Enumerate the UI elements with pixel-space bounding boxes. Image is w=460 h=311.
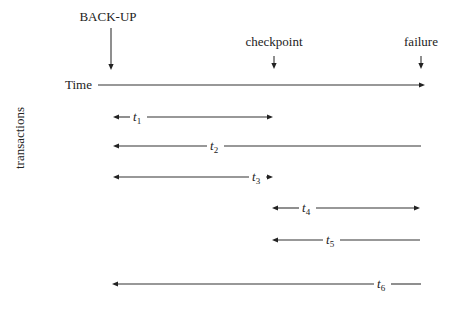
arrowhead-down-icon <box>418 63 423 69</box>
transaction-label: t6 <box>377 276 386 293</box>
transaction-label: t1 <box>133 109 141 126</box>
arrowhead-left-icon <box>112 281 118 286</box>
transaction-t2: t2 <box>113 138 421 155</box>
arrowhead-right-icon <box>267 174 273 179</box>
transaction-label: t3 <box>252 169 261 186</box>
transaction-t3: t3 <box>113 169 273 186</box>
arrowhead-left-icon <box>113 114 119 119</box>
arrowhead-left-icon <box>272 205 278 210</box>
transaction-t1: t1 <box>113 109 273 126</box>
arrowhead-left-icon <box>113 143 119 148</box>
transaction-timeline-diagram: BACK-UPcheckpointfailure Time transactio… <box>0 0 460 311</box>
marker-backup: BACK-UP <box>79 9 136 70</box>
marker-checkpoint: checkpoint <box>245 34 302 69</box>
arrowhead-down-icon <box>271 63 276 69</box>
transaction-t5: t5 <box>272 232 420 249</box>
transaction-label: t4 <box>302 200 311 217</box>
time-axis-arrowhead-icon <box>419 82 425 87</box>
transaction-label: t5 <box>326 232 335 249</box>
transaction-t4: t4 <box>272 200 420 217</box>
transactions-axis-label: transactions <box>12 107 27 169</box>
arrowhead-left-icon <box>113 174 119 179</box>
marker-failure: failure <box>404 34 438 69</box>
marker-label-checkpoint: checkpoint <box>245 34 302 49</box>
time-axis-label: Time <box>65 77 92 92</box>
arrowhead-right-icon <box>414 205 420 210</box>
transaction-label: t2 <box>210 138 218 155</box>
arrowhead-down-icon <box>108 64 113 70</box>
transactions-group: t1t2t3t4t5t6 <box>112 109 421 293</box>
marker-label-backup: BACK-UP <box>79 9 136 24</box>
arrowhead-right-icon <box>267 114 273 119</box>
marker-label-failure: failure <box>404 34 438 49</box>
time-axis: Time <box>65 77 425 92</box>
transaction-t6: t6 <box>112 276 421 293</box>
arrowhead-left-icon <box>272 237 278 242</box>
event-markers: BACK-UPcheckpointfailure <box>79 9 438 70</box>
